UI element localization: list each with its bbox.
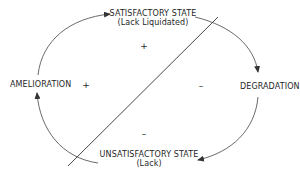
- node-degradation: DEGRADATION: [240, 82, 300, 91]
- node-unsatisfactory-state: UNSATISFACTORY STATE (Lack): [100, 150, 199, 168]
- minus-sign-bottom: –: [142, 130, 147, 139]
- satisfactory-state-title: SATISFACTORY STATE: [110, 9, 197, 18]
- plus-sign-top: +: [140, 42, 148, 51]
- plus-sign-left: +: [82, 81, 90, 90]
- node-amelioration: AMELIORATION: [10, 80, 71, 89]
- cycle-diagram: SATISFACTORY STATE (Lack Liquidated) DEG…: [0, 0, 300, 179]
- arc-unsatisfactory-to-amelioration: [37, 93, 98, 163]
- degradation-title: DEGRADATION: [240, 82, 300, 91]
- arc-satisfactory-to-degradation: [195, 17, 258, 72]
- diagonal-divider-line: [68, 17, 218, 166]
- node-satisfactory-state: SATISFACTORY STATE (Lack Liquidated): [110, 9, 197, 27]
- unsatisfactory-state-title: UNSATISFACTORY STATE: [100, 150, 199, 159]
- arc-amelioration-to-satisfactory: [38, 14, 110, 75]
- satisfactory-state-subtitle: (Lack Liquidated): [110, 18, 197, 27]
- minus-sign-right: –: [199, 82, 204, 91]
- amelioration-title: AMELIORATION: [10, 80, 71, 89]
- arc-degradation-to-unsatisfactory: [198, 97, 258, 160]
- unsatisfactory-state-subtitle: (Lack): [100, 159, 199, 168]
